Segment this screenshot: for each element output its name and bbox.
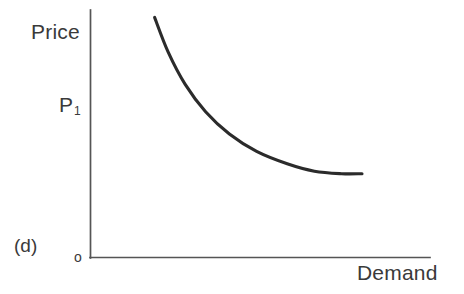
origin-label: o [74,250,82,264]
x-axis-label: Demand [357,262,438,283]
demand-curve-figure: Price P1 o Demand (d) [0,0,464,294]
price-level-letter: P [59,93,73,116]
chart-canvas [0,0,464,294]
demand-curve-path [155,17,362,173]
price-level-subscript: 1 [73,104,81,118]
y-axis-label: Price [31,21,80,42]
figure-caption: (d) [14,236,37,255]
price-level-label: P1 [59,94,81,117]
